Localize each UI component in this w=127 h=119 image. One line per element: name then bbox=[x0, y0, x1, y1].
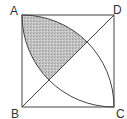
shaded-region bbox=[22, 15, 87, 80]
geometry-diagram: A D B C bbox=[0, 0, 127, 119]
label-b: B bbox=[11, 107, 19, 119]
label-c: C bbox=[116, 107, 125, 119]
label-d: D bbox=[113, 3, 122, 17]
label-a: A bbox=[10, 4, 18, 18]
